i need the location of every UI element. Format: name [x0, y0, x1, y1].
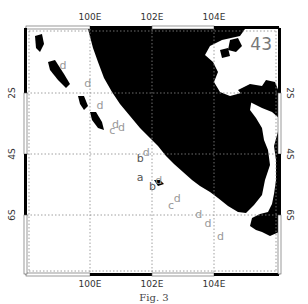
x-tick-top-100e: 100E [79, 12, 102, 22]
land-simeulue [35, 34, 44, 52]
x-tick-top-104e: 104E [203, 12, 226, 22]
x-tick-bottom-102e: 102E [141, 279, 164, 289]
y-tick-left-4s: 4S [7, 148, 17, 160]
y-tick-right-6s: 6S [285, 209, 295, 221]
y-tick-left-6s: 6S [7, 209, 17, 221]
marker-b: b [137, 152, 144, 165]
marker-d: d [217, 230, 224, 243]
x-tick-bottom-100e: 100E [79, 279, 102, 289]
land-sipora-pagai [90, 112, 104, 130]
marker-d: d [97, 99, 104, 112]
figure-caption: Fig. 3 [0, 292, 308, 303]
x-tick-top-102e: 102E [141, 12, 164, 22]
marker-d: d [195, 208, 202, 221]
marker-d: d [174, 192, 181, 205]
y-tick-right-4s: 4S [285, 148, 295, 160]
y-tick-right-2s: 2S [285, 87, 295, 99]
land-siberut [78, 96, 88, 110]
marker-c: c [168, 199, 174, 212]
marker-b: b [149, 180, 156, 193]
marker-d: d [84, 77, 91, 90]
marker-d: d [60, 59, 67, 72]
x-tick-bottom-104e: 104E [203, 279, 226, 289]
y-tick-left-2s: 2S [7, 87, 17, 99]
panel-number: 43 [250, 34, 272, 54]
land-small-island-ne [228, 38, 242, 52]
marker-d: d [143, 146, 150, 159]
marker-d: d [118, 121, 125, 134]
marker-d: d [205, 217, 212, 230]
map-figure: 100E 102E 104E 100E 102E 104E 2S 4S 6S 2… [0, 0, 308, 304]
marker-c: c [109, 124, 115, 137]
marker-d: d [155, 174, 162, 187]
marker-a: a [137, 171, 144, 184]
